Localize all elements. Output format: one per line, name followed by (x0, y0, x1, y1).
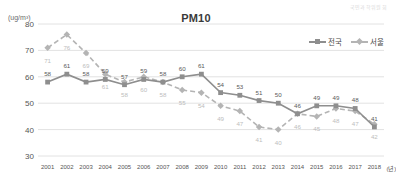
data-point-seoul[interactable] (275, 126, 282, 133)
data-point-national[interactable] (84, 80, 89, 85)
series-seoul (44, 31, 377, 133)
x-tick-label: 2005 (118, 164, 131, 170)
data-point-seoul[interactable] (313, 113, 320, 120)
data-point-national[interactable] (141, 77, 146, 82)
data-label-national: 60 (179, 64, 186, 71)
x-tick-label: 2009 (195, 164, 208, 170)
x-tick-label: 2010 (214, 164, 227, 170)
data-label-national: 61 (63, 62, 70, 69)
y-tick-label: 70 (4, 46, 34, 55)
data-label-national: 41 (371, 114, 378, 121)
series-line-national (48, 74, 375, 127)
data-label-seoul: 58 (159, 91, 166, 98)
data-point-seoul[interactable] (179, 87, 186, 94)
y-tick-label: 30 (4, 152, 34, 161)
data-label-national: 58 (44, 70, 51, 77)
data-point-national[interactable] (237, 93, 242, 98)
data-label-seoul: 46 (294, 122, 301, 129)
x-tick-label: 2015 (310, 164, 323, 170)
data-label-seoul: 49 (217, 114, 224, 121)
x-tick-label: 2002 (60, 164, 73, 170)
data-point-national[interactable] (257, 98, 262, 103)
data-point-national[interactable] (45, 80, 50, 85)
data-point-seoul[interactable] (198, 89, 205, 96)
gridlines (38, 24, 384, 156)
data-label-seoul: 76 (63, 43, 70, 50)
data-label-national: 58 (159, 70, 166, 77)
x-tick-label: 2007 (156, 164, 169, 170)
x-tick-label: 2003 (79, 164, 92, 170)
data-label-national: 57 (121, 72, 128, 79)
series-line-seoul (48, 35, 375, 130)
x-tick-label: 2006 (137, 164, 150, 170)
data-point-national[interactable] (199, 72, 204, 77)
data-point-national[interactable] (334, 103, 339, 108)
x-tick-label: 2017 (348, 164, 361, 170)
data-point-national[interactable] (295, 111, 300, 116)
data-label-seoul: 61 (102, 83, 109, 90)
plot-area (38, 24, 384, 156)
data-point-national[interactable] (64, 72, 69, 77)
series-national (45, 72, 377, 130)
x-tick-label: 2013 (272, 164, 285, 170)
chart-title: PM10 (0, 12, 392, 24)
data-label-seoul: 47 (236, 120, 243, 127)
data-label-seoul: 69 (83, 62, 90, 69)
x-tick-label: 2014 (291, 164, 304, 170)
data-point-national[interactable] (103, 77, 108, 82)
x-tick-label: 2004 (99, 164, 112, 170)
data-label-seoul: 45 (313, 125, 320, 132)
data-label-national: 58 (83, 70, 90, 77)
data-point-national[interactable] (161, 80, 166, 85)
data-point-national[interactable] (372, 125, 377, 130)
x-axis-ticks: 2001200220032004200520062007200820092010… (38, 162, 384, 176)
data-point-national[interactable] (122, 82, 127, 87)
data-point-national[interactable] (180, 74, 185, 79)
data-label-seoul: 48 (332, 117, 339, 124)
x-tick-label: 2016 (329, 164, 342, 170)
data-label-seoul: 54 (198, 101, 205, 108)
data-label-national: 49 (332, 93, 339, 100)
y-axis-ticks: 807060504030 (0, 24, 34, 156)
data-label-national: 48 (352, 96, 359, 103)
x-tick-label: 2001 (41, 164, 54, 170)
data-label-seoul: 40 (275, 138, 282, 145)
y-tick-label: 80 (4, 20, 34, 29)
data-label-national: 53 (236, 83, 243, 90)
data-point-national[interactable] (276, 101, 281, 106)
data-label-national: 50 (275, 91, 282, 98)
data-label-national: 61 (198, 62, 205, 69)
y-tick-label: 50 (4, 99, 34, 108)
x-axis-unit-label: (년) (386, 164, 396, 173)
data-label-national: 54 (217, 80, 224, 87)
data-label-national: 49 (313, 93, 320, 100)
data-label-national: 59 (140, 67, 147, 74)
data-label-national: 51 (256, 88, 263, 95)
plot-svg (38, 24, 384, 156)
y-tick-label: 40 (4, 125, 34, 134)
data-label-national: 46 (294, 101, 301, 108)
data-point-national[interactable] (314, 103, 319, 108)
data-label-seoul: 60 (140, 85, 147, 92)
data-label-seoul: 71 (44, 56, 51, 63)
data-label-seoul: 41 (256, 135, 263, 142)
x-tick-label: 2012 (252, 164, 265, 170)
data-label-seoul: 58 (121, 91, 128, 98)
y-tick-label: 60 (4, 72, 34, 81)
x-tick-label: 2011 (233, 164, 246, 170)
data-label-seoul: 55 (179, 99, 186, 106)
data-label-national: 59 (102, 67, 109, 74)
data-point-national[interactable] (353, 106, 358, 111)
data-label-seoul: 42 (371, 133, 378, 140)
data-point-national[interactable] (218, 90, 223, 95)
data-label-seoul: 47 (352, 120, 359, 127)
x-tick-label: 2008 (175, 164, 188, 170)
watermark-text: 국민과학위원회 (350, 3, 387, 10)
x-tick-label: 2018 (368, 164, 381, 170)
